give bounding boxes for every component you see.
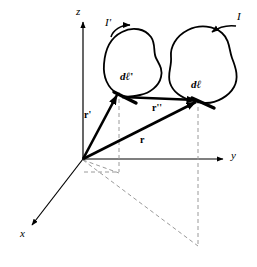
r-label: r	[140, 135, 144, 145]
z-axis-label: z	[76, 6, 80, 17]
primed-loop-outline	[104, 29, 162, 97]
d-ell-ell: ℓ	[197, 78, 202, 91]
vector-diagram	[0, 0, 257, 267]
axis-group	[32, 22, 223, 225]
primed-loop-current-label: I'	[105, 17, 111, 28]
dashed-ray-primed	[83, 160, 119, 173]
y-axis-label: y	[231, 150, 236, 161]
r-base: r	[140, 134, 144, 145]
unprimed-loop-outline	[169, 26, 237, 103]
unprimed-loop-current-label: I	[237, 11, 241, 22]
r-double-prime-mark: ''	[156, 102, 162, 113]
d-ell-prime-label: dℓ'	[120, 71, 133, 82]
figure-container: z y x I' I dℓ' dℓ r' r r''	[0, 0, 257, 267]
r-prime-label: r'	[84, 110, 91, 120]
vector-group	[83, 95, 196, 159]
d-ell-prime-prime: '	[130, 70, 133, 82]
r-prime-mark: '	[88, 109, 91, 120]
x-axis-label: x	[20, 228, 25, 239]
dashed-ray-unprimed	[83, 160, 198, 246]
x-axis	[32, 159, 83, 225]
r-vector	[83, 102, 196, 159]
r-double-prime-label: r''	[152, 103, 162, 113]
projection-lines-group	[83, 92, 198, 246]
unprimed-current-arrow-icon	[212, 26, 236, 32]
primed-current-arrow-icon	[111, 25, 130, 37]
d-ell-label: dℓ	[191, 79, 201, 90]
